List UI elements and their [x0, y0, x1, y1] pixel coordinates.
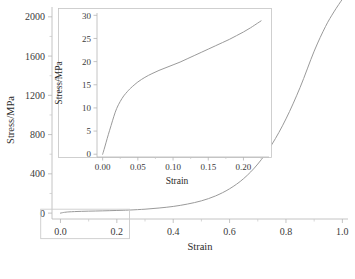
y-tick-label: 2000 [25, 11, 45, 22]
inset-y-tick-label: 15 [82, 80, 92, 90]
inset-x-tick-label: 0.20 [236, 162, 252, 172]
y-tick-label: 400 [30, 168, 45, 179]
y-tick-label: 1200 [25, 90, 45, 101]
stress-strain-figure: 0.00.20.40.60.81.0 0400800120016002000 S… [0, 0, 355, 279]
inset-x-axis-title: Strain [166, 176, 189, 186]
y-tick-label: 800 [30, 129, 45, 140]
main-x-tick-labels: 0.00.20.40.60.81.0 [54, 226, 348, 237]
inset-y-tick-label: 0 [87, 149, 92, 159]
inset-x-tick-label: 0.15 [200, 162, 216, 172]
x-tick-label: 0.8 [280, 226, 293, 237]
inset-y-tick-label: 5 [87, 126, 92, 136]
inset-y-tick-label: 20 [82, 57, 92, 67]
main-x-axis-title: Strain [187, 241, 213, 252]
y-tick-label: 1600 [25, 51, 45, 62]
main-y-axis-title: Stress/MPa [5, 96, 16, 144]
x-tick-label: 0.4 [167, 226, 180, 237]
main-y-tick-labels: 0400800120016002000 [25, 11, 45, 218]
x-tick-label: 0.0 [54, 226, 67, 237]
inset-y-tick-label: 25 [82, 34, 92, 44]
inset-x-tick-labels: 0.000.050.100.150.20 [95, 162, 252, 172]
inset-y-tick-label: 10 [82, 103, 92, 113]
inset-x-tick-label: 0.05 [130, 162, 146, 172]
x-tick-label: 1.0 [336, 226, 349, 237]
x-tick-label: 0.6 [223, 226, 236, 237]
inset-chart: 0.000.050.100.150.20 051015202530 Strain… [54, 9, 272, 187]
inset-x-tick-label: 0.00 [95, 162, 111, 172]
x-tick-label: 0.2 [111, 226, 124, 237]
inset-y-axis-title: Stress/MPa [54, 61, 64, 105]
inset-y-tick-label: 30 [82, 11, 92, 21]
chart-canvas: 0.00.20.40.60.81.0 0400800120016002000 S… [0, 0, 355, 279]
inset-x-tick-label: 0.10 [165, 162, 181, 172]
